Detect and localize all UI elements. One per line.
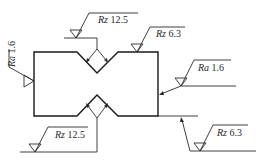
roughness-symbol-bottom-notch (20, 103, 108, 152)
label-right-side: Ra 1.6 (198, 63, 224, 73)
label-top-right: Rz 6.3 (156, 29, 181, 39)
label-bottom-right: Rz 6.3 (217, 128, 242, 138)
label-top-notch: Rz 12.5 (98, 15, 128, 25)
part-outline (34, 52, 158, 116)
label-left-side: Ra 1.6 (7, 41, 17, 67)
label-bottom-notch: Rz 12.5 (55, 130, 85, 140)
